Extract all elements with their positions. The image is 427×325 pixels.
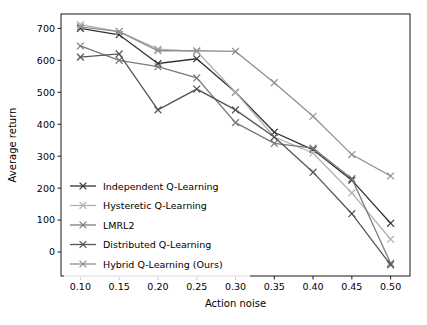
legend-label: Hybrid Q-Learning (Ours) [103, 259, 223, 270]
chart-container: 0.100.150.200.250.300.350.400.450.500100… [0, 0, 427, 325]
y-tick-label: 500 [37, 87, 55, 98]
legend-label: Hysteretic Q-Learning [103, 200, 207, 211]
y-tick-label: 100 [37, 214, 55, 225]
line-chart: 0.100.150.200.250.300.350.400.450.500100… [0, 0, 427, 325]
y-tick-label: 300 [37, 151, 55, 162]
y-tick-label: 600 [37, 55, 55, 66]
y-axis-title: Average return [7, 108, 18, 183]
x-tick-label: 0.10 [70, 281, 91, 292]
x-tick-label: 0.15 [109, 281, 130, 292]
x-tick-label: 0.20 [147, 281, 168, 292]
x-tick-label: 0.45 [341, 281, 362, 292]
legend-label: Independent Q-Learning [103, 181, 219, 192]
legend-label: Distributed Q-Learning [103, 239, 211, 250]
x-axis-title: Action noise [205, 298, 266, 309]
x-tick-label: 0.25 [186, 281, 207, 292]
x-tick-label: 0.40 [302, 281, 323, 292]
x-tick-label: 0.30 [225, 281, 246, 292]
legend-label: LMRL2 [103, 220, 134, 231]
x-tick-label: 0.50 [380, 281, 401, 292]
y-tick-label: 200 [37, 183, 55, 194]
y-tick-label: 700 [37, 23, 55, 34]
y-tick-label: 0 [49, 246, 55, 257]
y-tick-label: 400 [37, 119, 55, 130]
x-tick-label: 0.35 [264, 281, 285, 292]
